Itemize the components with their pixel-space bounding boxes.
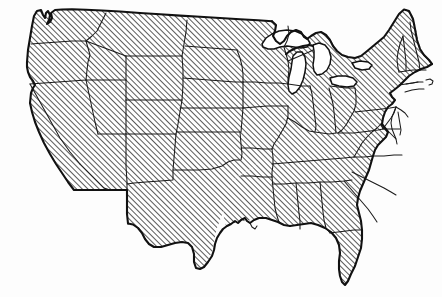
map-figure: Outline map of the 48 contiguous United …	[0, 0, 442, 297]
us-map-svg	[0, 0, 442, 297]
